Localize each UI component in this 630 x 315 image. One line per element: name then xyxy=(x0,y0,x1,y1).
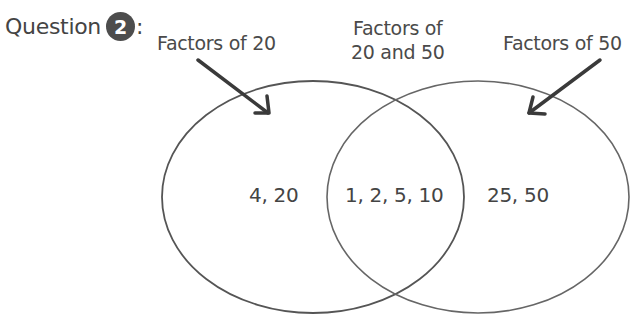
question-label: Question xyxy=(5,14,101,39)
arrow-left-icon xyxy=(198,60,269,113)
label-factors-of-both: Factors of 20 and 50 xyxy=(351,16,444,64)
arrow-right-icon xyxy=(529,60,600,114)
label-factors-of-both-line1: Factors of xyxy=(351,16,444,40)
label-factors-of-both-line2: 20 and 50 xyxy=(351,40,444,64)
label-factors-of-20: Factors of 20 xyxy=(157,32,276,54)
region-only-20-values: 4, 20 xyxy=(249,183,298,207)
question-colon: : xyxy=(136,14,143,39)
question-number-badge: 2 xyxy=(106,12,135,41)
region-intersection-values: 1, 2, 5, 10 xyxy=(345,183,443,207)
question-heading: Question 2 : xyxy=(5,12,143,41)
region-only-50-values: 25, 50 xyxy=(487,183,549,207)
label-factors-of-50: Factors of 50 xyxy=(503,32,622,54)
venn-diagram-stage: Question 2 : Factors of 20 Factors of 20… xyxy=(0,0,630,315)
